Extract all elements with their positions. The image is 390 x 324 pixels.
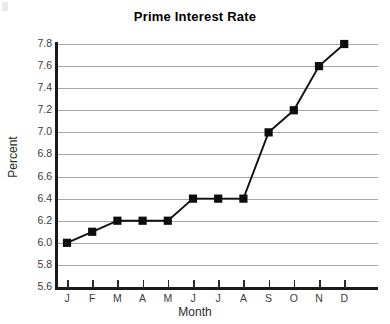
data-point-marker	[315, 62, 323, 70]
data-point-marker	[164, 217, 172, 225]
prime-interest-rate-chart: Prime Interest Rate 7.87.67.47.27.06.86.…	[0, 0, 390, 324]
data-point-marker	[63, 239, 71, 247]
data-series	[0, 0, 390, 324]
data-point-marker	[214, 195, 222, 203]
data-point-marker	[290, 106, 298, 114]
data-point-marker	[189, 195, 197, 203]
data-point-marker	[265, 128, 273, 136]
data-point-marker	[113, 217, 121, 225]
data-point-marker	[340, 40, 348, 48]
data-point-marker	[88, 228, 96, 236]
data-point-marker	[239, 195, 247, 203]
series-line	[67, 44, 344, 243]
data-point-marker	[139, 217, 147, 225]
